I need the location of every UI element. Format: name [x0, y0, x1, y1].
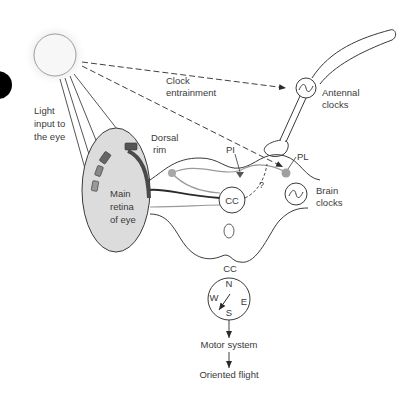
pi-label: PI — [226, 144, 235, 155]
polarizer-top — [125, 143, 137, 150]
compass-e: E — [241, 296, 247, 307]
light-input-label: Light input to the eye — [34, 105, 68, 142]
compass-n: N — [226, 278, 233, 289]
motor-system-label: Motor system — [200, 339, 257, 350]
main-retina-label: Main retina of eye — [110, 188, 136, 225]
pi-arrowhead — [236, 172, 244, 178]
antennal-clocks-label: Antennal clocks — [322, 87, 362, 110]
diagram-canvas: Light input to the eye Clock entrainment… — [0, 0, 414, 393]
compass-w: W — [210, 292, 219, 303]
neuron-dot — [168, 169, 176, 177]
cc-label: CC — [225, 195, 239, 206]
compass-title: CC — [223, 263, 237, 274]
compass-s: S — [226, 307, 232, 318]
dorsal-rim-label: Dorsal rim — [151, 132, 181, 155]
brain-oval — [224, 224, 234, 238]
brain-clocks-label: Brain clocks — [316, 185, 343, 208]
oriented-flight-label: Oriented flight — [199, 369, 259, 380]
pl-label: PL — [297, 151, 309, 162]
page-marker-dot — [0, 71, 12, 99]
question-mark: ? — [259, 180, 264, 190]
sun-icon — [23, 23, 87, 87]
pl-dot — [282, 169, 291, 178]
filter-3 — [91, 181, 99, 192]
